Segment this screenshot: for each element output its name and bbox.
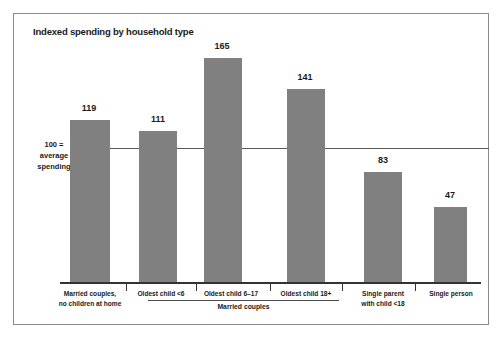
bar-value-label: 47 xyxy=(415,190,485,200)
bar-oldest-child-6-17[interactable] xyxy=(204,58,242,282)
bar-oldest-child-under-6[interactable] xyxy=(139,131,177,282)
category-label-line: Single person xyxy=(416,289,486,299)
bar-value-label: 141 xyxy=(270,72,340,82)
bar-single-parent-child-under-18[interactable] xyxy=(364,172,402,282)
category-label-oldest-child-under-6: Oldest child <6 xyxy=(126,289,196,299)
bar-value-label: 83 xyxy=(348,155,418,165)
bar-value-label: 111 xyxy=(126,114,190,124)
chart-page: Indexed spending by household type 100 =… xyxy=(0,0,503,352)
bar-value-label: 119 xyxy=(50,103,128,113)
bar-single-person[interactable] xyxy=(434,207,467,282)
category-label-line: Oldest child <6 xyxy=(126,289,196,299)
category-label-oldest-child-6-17: Oldest child 6–17 xyxy=(191,289,271,299)
bar-married-couples-no-children[interactable] xyxy=(70,120,110,282)
category-label-line: Married couples, xyxy=(42,289,138,299)
category-label-married-couples-no-children: Married couples, no children at home xyxy=(42,289,138,308)
category-label-line: Single parent xyxy=(345,289,421,299)
category-label-single-parent: Single parent with child <18 xyxy=(345,289,421,308)
category-label-oldest-child-18-plus: Oldest child 18+ xyxy=(268,289,344,299)
category-label-line: Oldest child 18+ xyxy=(268,289,344,299)
bar-oldest-child-18-plus[interactable] xyxy=(287,89,325,282)
category-label-line: Oldest child 6–17 xyxy=(191,289,271,299)
category-label-single-person: Single person xyxy=(416,289,486,299)
category-label-line: no children at home xyxy=(42,299,138,309)
group-bracket-label-married-couples: Married couples xyxy=(148,303,339,310)
plot-area: 100 = average spending 119 111 165 141 8… xyxy=(0,0,503,352)
bar-value-label: 165 xyxy=(187,41,257,51)
group-bracket-line xyxy=(148,300,339,301)
category-label-line: with child <18 xyxy=(345,299,421,309)
